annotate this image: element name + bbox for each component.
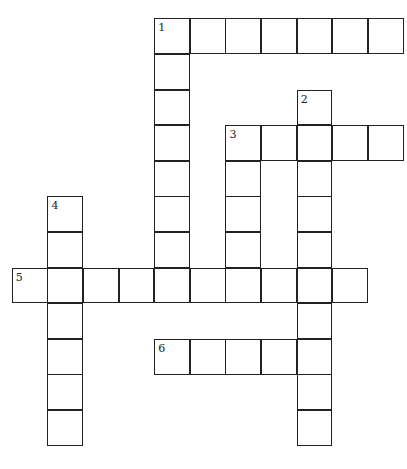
crossword-cell[interactable] [154, 54, 190, 90]
crossword-cell[interactable] [332, 268, 368, 304]
crossword-cell[interactable] [190, 268, 226, 304]
crossword-cell[interactable]: 4 [47, 196, 83, 232]
crossword-cell[interactable] [154, 196, 190, 232]
crossword-cell[interactable]: 6 [154, 339, 190, 375]
crossword-cell[interactable] [154, 90, 190, 126]
crossword-cell[interactable] [368, 125, 404, 161]
crossword-cell[interactable]: 1 [154, 18, 190, 54]
crossword-cell[interactable] [261, 339, 297, 375]
crossword-cell[interactable] [190, 339, 226, 375]
crossword-cell[interactable] [332, 18, 368, 54]
clue-number: 5 [16, 272, 23, 283]
crossword-cell[interactable] [297, 410, 333, 446]
crossword-cell[interactable] [261, 125, 297, 161]
crossword-cell[interactable] [47, 339, 83, 375]
crossword-cell[interactable] [154, 268, 190, 304]
crossword-cell[interactable] [154, 232, 190, 268]
crossword-cell[interactable] [261, 18, 297, 54]
clue-number: 2 [301, 94, 308, 105]
crossword-cell[interactable] [297, 339, 333, 375]
crossword-cell[interactable] [154, 161, 190, 197]
crossword-cell[interactable]: 2 [297, 90, 333, 126]
clue-number: 4 [51, 200, 58, 211]
crossword-cell[interactable] [47, 232, 83, 268]
clue-number: 3 [229, 129, 236, 140]
crossword-cell[interactable] [47, 303, 83, 339]
crossword-cell[interactable]: 3 [225, 125, 261, 161]
crossword-cell[interactable] [332, 125, 368, 161]
crossword-cell[interactable] [225, 339, 261, 375]
crossword-cell[interactable] [261, 268, 297, 304]
crossword-cell[interactable] [297, 161, 333, 197]
crossword-cell[interactable] [225, 18, 261, 54]
crossword-cell[interactable] [297, 374, 333, 410]
crossword-cell[interactable] [297, 303, 333, 339]
crossword-cell[interactable] [297, 18, 333, 54]
crossword-cell[interactable] [225, 161, 261, 197]
crossword-cell[interactable] [47, 268, 83, 304]
crossword-cell[interactable]: 5 [12, 268, 48, 304]
crossword-cell[interactable] [190, 18, 226, 54]
crossword-cell[interactable] [83, 268, 119, 304]
crossword-cell[interactable] [47, 374, 83, 410]
crossword-cell[interactable] [297, 268, 333, 304]
crossword-cell[interactable] [297, 125, 333, 161]
crossword-cell[interactable] [225, 232, 261, 268]
clue-number: 1 [158, 22, 165, 33]
crossword-cell[interactable] [297, 232, 333, 268]
crossword-cell[interactable] [368, 18, 404, 54]
clue-number: 6 [158, 343, 165, 354]
crossword-cell[interactable] [225, 196, 261, 232]
crossword-cell[interactable] [119, 268, 155, 304]
crossword-cell[interactable] [47, 410, 83, 446]
crossword-cell[interactable] [225, 268, 261, 304]
crossword-cell[interactable] [297, 196, 333, 232]
crossword-cell[interactable] [154, 125, 190, 161]
